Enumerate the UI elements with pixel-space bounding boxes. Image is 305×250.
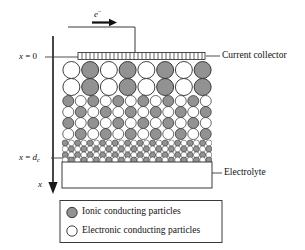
ionic-conducting-particle bbox=[125, 129, 136, 140]
ionic-conducting-particle bbox=[143, 146, 149, 152]
electronic-conducting-particle bbox=[113, 107, 124, 118]
electronic-conducting-particle bbox=[150, 118, 161, 129]
x-zero-equals: = 0 bbox=[23, 51, 37, 61]
electronic-conducting-particle bbox=[138, 107, 149, 118]
ionic-conducting-particle bbox=[82, 62, 99, 79]
electrolyte-region bbox=[62, 162, 212, 188]
electronic-conducting-particle bbox=[200, 96, 211, 107]
ionic-conducting-particle bbox=[187, 140, 193, 146]
electronic-conducting-particle bbox=[62, 146, 68, 152]
electronic-conducting-particle bbox=[175, 96, 186, 107]
ionic-conducting-particle bbox=[175, 140, 181, 146]
electrode-particle-bed bbox=[62, 62, 212, 164]
electronic-conducting-particle bbox=[175, 118, 186, 129]
ionic-conducting-particle bbox=[200, 107, 211, 118]
external-circuit bbox=[68, 19, 135, 56]
electronic-conducting-particle bbox=[193, 140, 199, 146]
ionic-conducting-particle bbox=[163, 118, 174, 129]
ionic-conducting-particle bbox=[188, 118, 199, 129]
ionic-conducting-particle bbox=[87, 140, 93, 146]
electronic-conducting-particle bbox=[118, 140, 124, 146]
electronic-conducting-particle bbox=[163, 129, 174, 140]
ionic-conducting-particle bbox=[200, 129, 211, 140]
ionic-conducting-particle bbox=[81, 146, 87, 152]
ionic-conducting-particle bbox=[150, 129, 161, 140]
electronic-conducting-particle bbox=[175, 62, 192, 79]
electronic-conducting-particle bbox=[168, 140, 174, 146]
ionic-conducting-particle bbox=[93, 146, 99, 152]
ionic-conducting-particle bbox=[138, 118, 149, 129]
electronic-conducting-particle bbox=[75, 146, 81, 152]
electronic-conducting-particle bbox=[106, 140, 112, 146]
ionic-conducting-particle bbox=[75, 129, 86, 140]
electron-flow-arrow bbox=[92, 19, 117, 26]
ionic-conducting-particle bbox=[100, 140, 106, 146]
ionic-particle-marker bbox=[67, 207, 77, 217]
electronic-conducting-particle bbox=[100, 146, 106, 152]
electronic-conducting-particle bbox=[81, 140, 87, 146]
electronic-conducting-particle bbox=[125, 146, 131, 152]
current-collector bbox=[78, 53, 205, 60]
x-zero-label: x = 0 bbox=[19, 52, 37, 61]
ionic-conducting-particle bbox=[188, 96, 199, 107]
ionic-conducting-particle bbox=[75, 107, 86, 118]
ionic-conducting-particle bbox=[156, 146, 162, 152]
x-dc-label: x = dc bbox=[19, 153, 40, 164]
electronic-conducting-particle bbox=[75, 118, 86, 129]
electronic-conducting-particle bbox=[138, 129, 149, 140]
electronic-conducting-particle bbox=[175, 146, 181, 152]
electronic-conducting-particle bbox=[88, 129, 99, 140]
ionic-conducting-particle bbox=[175, 107, 186, 118]
ionic-conducting-particle bbox=[125, 107, 136, 118]
electronic-conducting-particle bbox=[88, 107, 99, 118]
ionic-conducting-particle bbox=[168, 146, 174, 152]
electronic-conducting-particle bbox=[181, 140, 187, 146]
ionic-conducting-particle bbox=[63, 96, 74, 107]
current-collector-label: Current collector bbox=[222, 51, 287, 61]
ionic-conducting-particle bbox=[62, 140, 68, 146]
ionic-conducting-particle bbox=[131, 146, 137, 152]
electronic-conducting-particle bbox=[206, 140, 212, 146]
electron-superscript: − bbox=[98, 8, 102, 15]
electronic-conducting-particle bbox=[150, 96, 161, 107]
ionic-conducting-particle bbox=[150, 107, 161, 118]
ionic-conducting-particle bbox=[162, 140, 168, 146]
ionic-conducting-particle bbox=[175, 129, 186, 140]
electronic-conducting-particle bbox=[100, 96, 111, 107]
x-axis bbox=[48, 36, 57, 194]
ionic-conducting-particle bbox=[82, 79, 99, 96]
ionic-conducting-particle bbox=[181, 146, 187, 152]
electronic-conducting-particle bbox=[200, 118, 211, 129]
electronic-conducting-particle bbox=[162, 146, 168, 152]
electronic-conducting-particle bbox=[125, 96, 136, 107]
electronic-conducting-particle bbox=[138, 62, 155, 79]
electronic-conducting-particle bbox=[187, 146, 193, 152]
electronic-conducting-particle bbox=[100, 62, 117, 79]
electronic-conducting-particle bbox=[131, 140, 137, 146]
ionic-conducting-particle bbox=[194, 62, 211, 79]
electronic-conducting-particle bbox=[75, 96, 86, 107]
ionic-conducting-particle bbox=[137, 140, 143, 146]
electronic-conducting-particle bbox=[125, 118, 136, 129]
ionic-conducting-particle bbox=[75, 140, 81, 146]
electronic-particle-marker bbox=[67, 226, 77, 236]
electronic-conducting-particle bbox=[100, 118, 111, 129]
electronic-conducting-particle bbox=[93, 140, 99, 146]
ionic-conducting-particle bbox=[206, 146, 212, 152]
electronic-conducting-particle bbox=[137, 146, 143, 152]
electronic-conducting-particle bbox=[100, 79, 117, 96]
electronic-conducting-particle bbox=[188, 107, 199, 118]
electron-label: e− bbox=[94, 9, 102, 19]
legend-item-electronic-label: Electronic conducting particles bbox=[82, 226, 200, 236]
ionic-conducting-particle bbox=[113, 118, 124, 129]
ionic-conducting-particle bbox=[68, 146, 74, 152]
electronic-conducting-particle bbox=[143, 140, 149, 146]
electronic-conducting-particle bbox=[156, 140, 162, 146]
electronic-conducting-particle bbox=[63, 79, 80, 96]
x-dc-subscript: c bbox=[37, 156, 40, 163]
ionic-conducting-particle bbox=[150, 140, 156, 146]
ionic-conducting-particle bbox=[194, 79, 211, 96]
ionic-conducting-particle bbox=[106, 146, 112, 152]
electronic-conducting-particle bbox=[150, 146, 156, 152]
figure-root: e− x = 0 x = dc x Current collector Elec… bbox=[0, 0, 305, 250]
